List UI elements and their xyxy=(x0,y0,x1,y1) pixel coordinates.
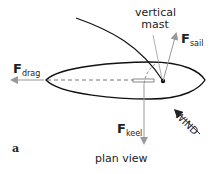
panel-label: a xyxy=(12,143,19,154)
f-sail-symbol: F xyxy=(181,31,190,46)
f-keel-subscript: keel xyxy=(126,129,142,138)
f-sail-arrow xyxy=(163,34,176,81)
keel xyxy=(133,79,154,82)
f-sail-subscript: sail xyxy=(190,39,204,48)
hull-outline xyxy=(46,62,205,99)
mast-label: vertical mast xyxy=(135,7,175,30)
f-drag-symbol: F xyxy=(13,61,22,76)
mast-label-line2: mast xyxy=(135,19,175,30)
caption: plan view xyxy=(95,153,148,164)
f-keel-symbol: F xyxy=(117,121,126,136)
f-drag-label: Fdrag xyxy=(13,62,40,75)
f-sail-label: Fsail xyxy=(181,32,203,45)
f-keel-label: Fkeel xyxy=(117,122,142,135)
f-drag-subscript: drag xyxy=(22,69,40,78)
sailboat-plan-view-diagram xyxy=(0,0,215,174)
mast-label-line1: vertical xyxy=(135,7,175,18)
